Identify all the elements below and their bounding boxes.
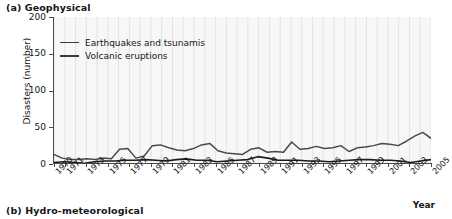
legend-item: Earthquakes and tsunamis <box>60 36 205 49</box>
panel-a-title: (a) Geophysical <box>6 2 91 13</box>
legend-label: Earthquakes and tsunamis <box>85 38 205 48</box>
panel-b-title: (b) Hydro-meteorological <box>6 205 144 216</box>
legend-item: Volcanic eruptions <box>60 49 205 62</box>
y-tick-mark <box>49 54 53 55</box>
x-tick-label: 2005 <box>430 155 452 177</box>
legend-label: Volcanic eruptions <box>85 51 168 61</box>
x-axis-title: Year <box>413 200 435 210</box>
y-tick-label: 200 <box>4 13 46 22</box>
y-tick-label: 150 <box>4 49 46 58</box>
y-tick-label: 50 <box>4 123 46 132</box>
chart-legend: Earthquakes and tsunamisVolcanic eruptio… <box>60 36 205 62</box>
y-tick-mark <box>49 17 53 18</box>
series-line <box>54 132 431 159</box>
y-tick-mark <box>49 91 53 92</box>
y-tick-label: 0 <box>4 160 46 169</box>
y-tick-mark <box>49 164 53 165</box>
y-tick-mark <box>49 127 53 128</box>
legend-swatch-icon <box>60 42 79 43</box>
legend-swatch-icon <box>60 55 79 57</box>
y-axis-line <box>53 17 54 164</box>
y-tick-label: 100 <box>4 86 46 95</box>
